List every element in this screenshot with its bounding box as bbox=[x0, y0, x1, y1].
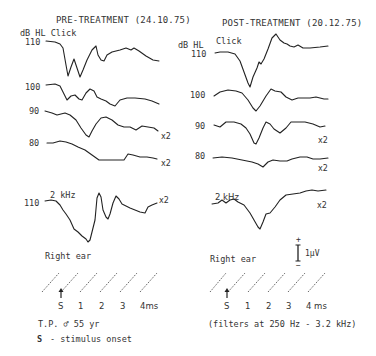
pre-2khz-gain: x2 bbox=[159, 197, 169, 205]
post-tick-1: 1 bbox=[245, 302, 250, 311]
pre-2khz-label: 2 kHz bbox=[50, 191, 76, 200]
scale-label: 1μV bbox=[305, 250, 319, 258]
post-axis-label-click: Click bbox=[216, 37, 242, 46]
pre-ear-label: Right ear bbox=[45, 252, 91, 261]
post-2khz-gain: x2 bbox=[317, 202, 327, 210]
pre-tick-2: 2 bbox=[99, 302, 104, 311]
legend-stimulus-onset: - stimulus onset bbox=[50, 335, 132, 344]
post-tick-2: 2 bbox=[266, 302, 271, 311]
pre-level-80: 80 bbox=[29, 139, 39, 148]
post-treatment-title: POST-TREATMENT (20.12.75) bbox=[222, 19, 362, 28]
pre-click-90-trace bbox=[45, 111, 158, 137]
post-gain-90: x2 bbox=[318, 137, 328, 145]
pre-treatment-title: PRE-TREATMENT (24.10.75) bbox=[56, 16, 191, 25]
pre-time-ticks bbox=[42, 273, 157, 292]
pre-tick-s: S bbox=[58, 302, 63, 311]
post-gain-80: x2 bbox=[318, 165, 328, 173]
scale-plus: + bbox=[296, 236, 301, 244]
pre-click-100-trace bbox=[46, 84, 159, 106]
post-click-90-trace bbox=[214, 122, 325, 144]
pre-click-110-trace bbox=[46, 41, 159, 77]
post-level-90: 90 bbox=[195, 122, 205, 131]
filters-note: (filters at 250 Hz - 3.2 kHz) bbox=[208, 320, 356, 329]
pre-tick-4ms: 4ms bbox=[140, 302, 158, 311]
post-level-110: 110 bbox=[191, 50, 206, 59]
post-tick-s: S bbox=[224, 302, 229, 311]
pre-level-90: 90 bbox=[29, 107, 39, 116]
pre-gain-90: x2 bbox=[161, 133, 171, 141]
post-tick-3: 3 bbox=[286, 302, 291, 311]
pre-click-80-trace bbox=[47, 141, 157, 160]
legend-s-symbol: S bbox=[37, 335, 42, 344]
post-click-100-trace bbox=[214, 89, 328, 111]
post-click-80-trace bbox=[213, 157, 328, 167]
post-level-100: 100 bbox=[190, 91, 205, 100]
pre-level-100: 100 bbox=[25, 83, 40, 92]
pre-tick-3: 3 bbox=[120, 302, 125, 311]
pre-2khz-level: 110 bbox=[24, 199, 39, 208]
post-stimulus-arrow-icon bbox=[225, 288, 230, 298]
post-2khz-label: 2 kHz bbox=[215, 193, 239, 202]
pre-gain-80: x2 bbox=[161, 160, 171, 168]
pre-level-110: 110 bbox=[25, 38, 40, 47]
post-level-80: 80 bbox=[195, 152, 205, 161]
post-tick-4ms: 4 ms bbox=[306, 302, 327, 311]
pre-2khz-110-trace bbox=[45, 193, 157, 242]
scale-minus: − bbox=[296, 262, 301, 270]
post-ear-label: Right ear bbox=[210, 255, 256, 264]
subject-info: T.P. ♂ 55 yr bbox=[38, 320, 99, 329]
microvolt-scale-bar bbox=[296, 245, 301, 261]
pre-tick-1: 1 bbox=[78, 302, 83, 311]
